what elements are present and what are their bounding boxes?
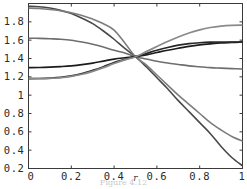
y-tick-label: 1.6	[4, 34, 25, 46]
data-curve	[29, 42, 243, 79]
y-tick-label: 0.8	[4, 107, 25, 119]
data-curve	[29, 25, 243, 79]
y-tick-label: 1.4	[4, 52, 25, 64]
y-tick-label: 1.8	[4, 15, 25, 27]
y-tick-label: 1.2	[4, 70, 25, 82]
plot-canvas: 0.20.40.60.811.21.41.61.800.20.40.60.81r	[0, 0, 247, 189]
y-tick-label: 0.2	[4, 162, 25, 174]
figure-caption: Figure 4.12	[0, 176, 247, 189]
figure-container: 0.20.40.60.811.21.41.61.800.20.40.60.81r…	[0, 0, 247, 189]
data-curve	[29, 6, 243, 166]
data-curve	[29, 42, 243, 68]
y-tick-label: 1	[18, 89, 25, 101]
series-group	[29, 6, 243, 166]
y-tick-label: 0.4	[4, 144, 25, 156]
y-tick-label: 0.6	[4, 125, 25, 137]
